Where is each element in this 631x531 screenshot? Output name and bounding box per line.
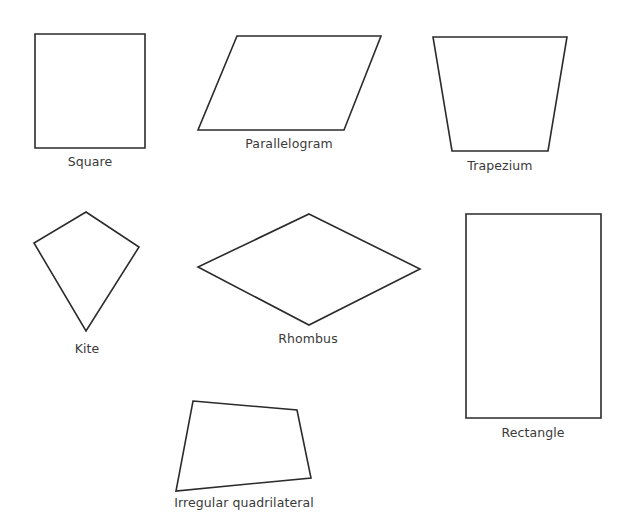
square-label: Square xyxy=(68,154,113,169)
trapezium-label: Trapezium xyxy=(467,158,532,173)
rectangle-label: Rectangle xyxy=(501,425,564,440)
square-shape xyxy=(35,34,145,148)
irregular-quadrilateral-shape xyxy=(176,401,311,491)
rhombus-shape xyxy=(198,214,420,325)
parallelogram-shape xyxy=(198,36,381,130)
trapezium-shape xyxy=(433,37,567,151)
parallelogram-label: Parallelogram xyxy=(245,136,332,151)
rhombus-label: Rhombus xyxy=(278,331,338,346)
irregular-quadrilateral-label: Irregular quadrilateral xyxy=(174,495,314,510)
kite-label: Kite xyxy=(75,341,100,356)
rectangle-shape xyxy=(466,214,601,418)
shapes-canvas xyxy=(0,0,631,531)
kite-shape xyxy=(34,212,139,331)
